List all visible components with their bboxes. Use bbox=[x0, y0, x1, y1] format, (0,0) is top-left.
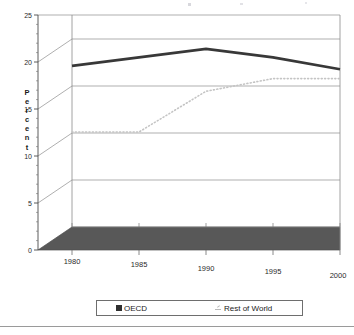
y-axis-title-char: c bbox=[21, 115, 33, 124]
y-axis-title-char: t bbox=[21, 143, 33, 152]
x-tick-label: 2000 bbox=[330, 271, 347, 280]
legend-label: Rest of World bbox=[224, 304, 272, 313]
x-tick-label: 1985 bbox=[131, 260, 148, 269]
dotted-line-icon bbox=[215, 305, 222, 312]
chart-legend: OECD Rest of World bbox=[96, 300, 303, 316]
scan-artifact bbox=[240, 3, 243, 5]
y-tick-label: 10 bbox=[24, 153, 32, 160]
x-axis-ticks bbox=[72, 250, 340, 255]
x-tick-label: 1980 bbox=[64, 257, 81, 266]
legend-label: OECD bbox=[124, 304, 147, 313]
y-tick-label: 5 bbox=[28, 200, 32, 207]
legend-item-oecd[interactable]: OECD bbox=[116, 301, 147, 315]
x-axis-back-ticks bbox=[72, 223, 340, 227]
scan-artifact bbox=[305, 2, 307, 4]
y-axis-title: P e r c e n t bbox=[21, 88, 33, 152]
chart-plot-area: 25 20 15 10 5 0 1980 1985 1990 1995 2000 bbox=[0, 0, 354, 335]
y-axis-title-char: r bbox=[21, 106, 33, 115]
chart-floor-3d bbox=[38, 227, 340, 250]
page-divider-rule bbox=[0, 326, 354, 327]
y-tick-label: 0 bbox=[28, 247, 32, 254]
y-tick-label: 25 bbox=[24, 12, 32, 19]
filled-square-icon bbox=[116, 305, 122, 311]
y-axis-title-char: e bbox=[21, 97, 33, 106]
y-axis-major-ticks bbox=[34, 15, 38, 250]
y-axis-title-char: e bbox=[21, 124, 33, 133]
series-line-rest-of-world bbox=[72, 79, 340, 132]
chart-container: 25 20 15 10 5 0 1980 1985 1990 1995 2000… bbox=[0, 0, 354, 335]
x-tick-label: 1990 bbox=[198, 264, 215, 273]
y-axis-title-char: P bbox=[21, 88, 33, 97]
x-axis-tick-labels: 1980 1985 1990 1995 2000 bbox=[64, 257, 347, 280]
y-axis-title-char: n bbox=[21, 133, 33, 142]
series-line-oecd bbox=[72, 49, 340, 69]
x-tick-label: 1995 bbox=[265, 267, 282, 276]
legend-item-rest-of-world[interactable]: Rest of World bbox=[215, 301, 272, 315]
chart-gridlines bbox=[38, 15, 340, 227]
scan-artifact bbox=[188, 3, 191, 6]
y-tick-label: 20 bbox=[24, 59, 32, 66]
